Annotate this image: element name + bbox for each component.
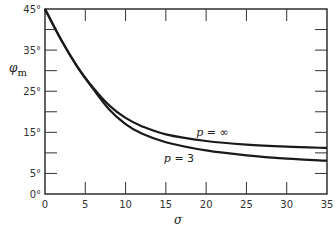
x-tick-label: 30 — [280, 199, 293, 210]
x-tick-label: 20 — [200, 199, 213, 210]
y-tick-label: 45° — [23, 4, 41, 15]
x-axis-label: σ — [174, 213, 183, 227]
y-axis-label: φm — [9, 61, 27, 78]
y-tick-labels: 0°5°15°25°35°45° — [23, 4, 41, 200]
chart: 0°5°15°25°35°45° 05101520253035 σ φm p =… — [0, 0, 336, 237]
x-tick-label: 5 — [82, 199, 88, 210]
x-tick-label: 10 — [119, 199, 132, 210]
curve-label-p-3: p = 3 — [164, 152, 194, 165]
x-tick-labels: 05101520253035 — [42, 199, 334, 210]
x-tick-label: 35 — [321, 199, 334, 210]
x-tick-label: 15 — [159, 199, 172, 210]
y-tick-label: 15° — [23, 127, 41, 138]
plot-frame — [45, 9, 327, 194]
y-tick-label: 25° — [23, 86, 41, 97]
curve-p-infinity — [45, 9, 327, 148]
y-tick-label: 35° — [23, 45, 41, 56]
y-tick-label: 5° — [30, 168, 41, 179]
y-tick-label: 0° — [30, 189, 41, 200]
x-tick-label: 0 — [42, 199, 48, 210]
curve-label-p-infinity: p = ∞ — [196, 126, 228, 139]
curves — [45, 9, 327, 161]
x-tick-label: 25 — [240, 199, 253, 210]
ticks — [45, 9, 327, 194]
